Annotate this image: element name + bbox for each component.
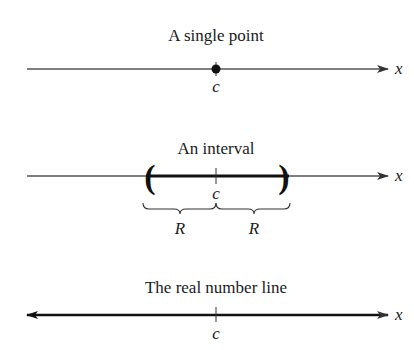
interval-panel: An interval ( ) c R R x xyxy=(27,139,403,238)
real-line-title: The real number line xyxy=(145,278,287,297)
interval-title: An interval xyxy=(178,139,255,158)
right-brace-icon xyxy=(216,203,290,214)
single-point-title: A single point xyxy=(168,26,264,45)
point-dot-icon xyxy=(212,65,221,74)
axis-label-x: x xyxy=(394,166,403,185)
center-label-c: c xyxy=(212,184,220,203)
left-radius-label: R xyxy=(174,219,186,238)
left-brace-icon xyxy=(143,203,216,214)
number-line-diagrams: A single point c x An interval ( ) c R R… xyxy=(0,0,414,350)
tick-label-c: c xyxy=(212,324,220,343)
single-point-panel: A single point c x xyxy=(27,26,403,96)
axis-label-x: x xyxy=(394,305,403,324)
real-line-panel: The real number line c x xyxy=(27,278,403,343)
right-paren-icon: ) xyxy=(278,158,289,196)
axis-label-x: x xyxy=(394,59,403,78)
left-paren-icon: ( xyxy=(144,158,155,196)
point-label-c: c xyxy=(212,77,220,96)
right-radius-label: R xyxy=(248,219,260,238)
